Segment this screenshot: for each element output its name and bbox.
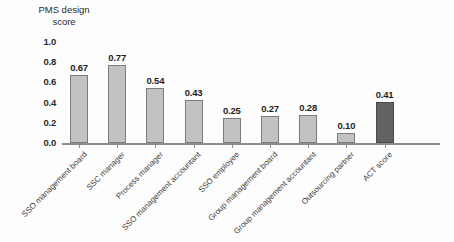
- bar-value-label: 0.41: [368, 89, 402, 100]
- y-axis-tick-label: 0.4: [30, 97, 56, 108]
- x-axis-label-text: Group management board: [207, 150, 280, 223]
- x-axis-baseline: [62, 143, 440, 145]
- bar: [261, 116, 279, 143]
- x-axis-tick: [194, 144, 195, 148]
- y-axis-tick-label: 0.6: [30, 76, 56, 87]
- bar-value-label: 0.28: [291, 102, 325, 113]
- bar: [108, 65, 126, 143]
- bar: [223, 118, 241, 143]
- x-axis-tick: [232, 144, 233, 148]
- x-axis-label-text: Group management accountant: [232, 150, 318, 236]
- bar-value-label: 0.10: [329, 120, 363, 131]
- bar: [185, 100, 203, 143]
- y-axis-tick-label: 0.2: [30, 117, 56, 128]
- bar-value-label: 0.27: [253, 103, 287, 114]
- x-axis-label-text: SSO management accountant: [121, 150, 203, 232]
- bar-value-label: 0.25: [215, 105, 249, 116]
- x-axis-tick: [270, 144, 271, 148]
- bar-value-label: 0.43: [177, 87, 211, 98]
- bar: [299, 115, 317, 143]
- bar: [337, 133, 355, 143]
- x-axis-tick: [346, 144, 347, 148]
- y-axis-tick-label: 1.0: [30, 36, 56, 47]
- bar-value-label: 0.77: [100, 52, 134, 63]
- x-axis-label-text: ACT score: [361, 150, 394, 183]
- bar-value-label: 0.67: [62, 62, 96, 73]
- bar-value-label: 0.54: [138, 75, 172, 86]
- x-axis-tick: [117, 144, 118, 148]
- bar: [146, 88, 164, 143]
- x-axis-label-text: SSO management board: [19, 150, 88, 219]
- x-axis-label-text: SSC manager: [85, 150, 127, 192]
- y-axis-tick-label: 0.0: [30, 137, 56, 148]
- x-axis-tick: [385, 144, 386, 148]
- x-axis-tick: [79, 144, 80, 148]
- x-axis-tick: [308, 144, 309, 148]
- y-axis-tick-label: 0.8: [30, 56, 56, 67]
- bar: [70, 75, 88, 143]
- x-axis-tick: [155, 144, 156, 148]
- bar: [376, 102, 394, 143]
- plot-area: 0.00.20.40.60.81.0 0.670.770.540.430.250…: [0, 0, 454, 242]
- bar-chart: PMS design score 0.00.20.40.60.81.0 0.67…: [0, 0, 454, 242]
